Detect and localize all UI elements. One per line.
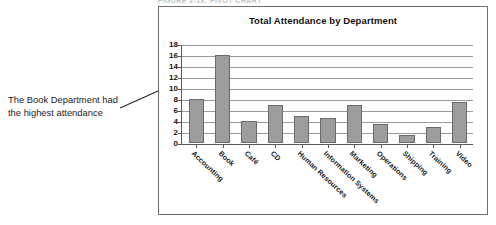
y-axis-tick — [178, 67, 182, 68]
chart-title: Total Attendance by Department — [159, 15, 487, 26]
chart-frame: Total Attendance by Department 181614121… — [158, 6, 488, 215]
x-label-slot: Accounting — [183, 149, 209, 209]
x-axis-ticks — [183, 144, 473, 148]
bar[interactable] — [373, 124, 388, 143]
x-axis-tick — [223, 144, 224, 148]
x-axis-tick — [302, 144, 303, 148]
bar-slot — [368, 44, 394, 143]
x-tick-slot — [341, 144, 367, 148]
bar-slot — [447, 44, 473, 143]
bar-series — [183, 44, 473, 143]
x-label-slot: Human Resources — [288, 149, 314, 209]
annotation-callout: The Book Department had the highest atte… — [8, 93, 148, 119]
y-axis-tick-label: 4 — [174, 118, 178, 126]
y-axis-tick — [178, 144, 182, 145]
x-tick-slot — [394, 144, 420, 148]
x-axis-tick — [354, 144, 355, 148]
bar-slot — [236, 44, 262, 143]
x-axis-tick — [460, 144, 461, 148]
x-label-slot: Operations — [368, 149, 394, 209]
bar-slot — [209, 44, 235, 143]
y-axis-tick-label: 18 — [169, 41, 178, 49]
x-axis-category-label: Video — [454, 149, 475, 169]
x-axis-tick — [407, 144, 408, 148]
y-axis-tick-label: 16 — [169, 52, 178, 60]
y-axis-tick — [178, 122, 182, 123]
x-tick-slot — [447, 144, 473, 148]
x-label-slot: Shipping — [394, 149, 420, 209]
y-axis-tick — [178, 45, 182, 46]
y-axis-tick-label: 12 — [169, 74, 178, 82]
x-axis-category-label: CD — [269, 149, 283, 163]
bar[interactable] — [320, 118, 335, 143]
x-label-slot: CD — [262, 149, 288, 209]
plot-wrapper: 181614121086420 AccountingBookCaféCDHuma… — [181, 45, 473, 145]
x-axis-tick — [328, 144, 329, 148]
x-tick-slot — [288, 144, 314, 148]
bar[interactable] — [268, 105, 283, 144]
x-axis-category-label: Café — [243, 149, 261, 166]
x-tick-slot — [368, 144, 394, 148]
bar-slot — [394, 44, 420, 143]
x-label-slot: Information Systems — [315, 149, 341, 209]
y-axis-tick — [178, 100, 182, 101]
y-axis-tick — [178, 56, 182, 57]
y-axis-tick-label: 8 — [174, 96, 178, 104]
x-axis-labels: AccountingBookCaféCDHuman ResourcesInfor… — [183, 149, 473, 209]
bar-slot — [183, 44, 209, 143]
y-axis-tick — [178, 89, 182, 90]
figure-caption: FIGURE 2-1x: PIVOT CHART — [158, 0, 262, 4]
y-axis-tick — [178, 133, 182, 134]
bar-slot — [288, 44, 314, 143]
bar[interactable] — [294, 116, 309, 144]
x-axis-tick — [433, 144, 434, 148]
x-tick-slot — [262, 144, 288, 148]
x-axis-tick — [196, 144, 197, 148]
bar[interactable] — [347, 105, 362, 144]
x-label-slot: Café — [236, 149, 262, 209]
annotation-line-2: the highest attendance — [8, 106, 148, 119]
x-axis-category-label: Book — [216, 149, 236, 168]
bar-slot — [341, 44, 367, 143]
bar-slot — [262, 44, 288, 143]
x-tick-slot — [236, 144, 262, 148]
x-tick-slot — [420, 144, 446, 148]
y-axis-tick — [178, 111, 182, 112]
y-axis-tick-label: 0 — [174, 140, 178, 148]
bar-slot — [420, 44, 446, 143]
x-label-slot: Book — [209, 149, 235, 209]
bar[interactable] — [399, 135, 414, 143]
annotation-line-1: The Book Department had — [8, 93, 148, 106]
bar-slot — [315, 44, 341, 143]
y-axis-tick-label: 2 — [174, 129, 178, 137]
bar[interactable] — [215, 55, 230, 143]
x-tick-slot — [209, 144, 235, 148]
bar[interactable] — [426, 127, 441, 143]
x-tick-slot — [183, 144, 209, 148]
x-tick-slot — [315, 144, 341, 148]
y-axis-tick — [178, 78, 182, 79]
x-axis-tick — [249, 144, 250, 148]
bar[interactable] — [241, 121, 256, 143]
x-label-slot: Video — [447, 149, 473, 209]
bar[interactable] — [189, 99, 204, 143]
x-label-slot: Marketing — [341, 149, 367, 209]
x-axis-tick — [381, 144, 382, 148]
y-axis-tick-label: 14 — [169, 63, 178, 71]
y-axis-tick-label: 10 — [169, 85, 178, 93]
plot-area: 181614121086420 AccountingBookCaféCDHuma… — [181, 45, 473, 145]
y-axis-tick-label: 6 — [174, 107, 178, 115]
x-axis-tick — [275, 144, 276, 148]
bar[interactable] — [452, 102, 467, 143]
x-label-slot: Training — [420, 149, 446, 209]
